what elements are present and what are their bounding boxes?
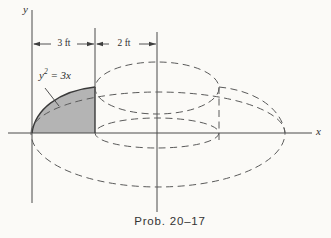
dim-3ft-left-arrow-icon (33, 42, 40, 46)
dim-3ft-right-arrow-icon (87, 42, 94, 46)
equation-rhs: = 3x (48, 69, 71, 81)
mirrored-parabola-profile (219, 87, 285, 133)
shaded-parabolic-region (32, 87, 95, 133)
dimension-label-3ft: 3 ft (50, 39, 78, 49)
figure-drawing (0, 0, 331, 238)
dimension-label-2ft: 2 ft (110, 39, 138, 49)
dim-2ft-left-arrow-icon (96, 42, 103, 46)
problem-figure: y x 3 ft 2 ft y2 = 3x Prob. 20–17 (0, 0, 331, 238)
y-axis-label: y (23, 4, 28, 15)
x-axis-label: x (316, 126, 321, 137)
curve-equation-label: y2 = 3x (39, 70, 71, 81)
figure-caption: Prob. 20–17 (110, 216, 230, 228)
dim-2ft-right-arrow-icon (149, 42, 156, 46)
